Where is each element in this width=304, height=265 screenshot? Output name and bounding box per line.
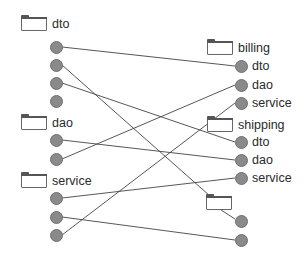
- diagram-canvas: dto dao service billing dto dao service …: [0, 0, 304, 265]
- folder-icon: [21, 116, 47, 130]
- package-label-dao: dao: [52, 116, 73, 130]
- node-dto-2[interactable]: [50, 59, 63, 72]
- node-shipping-dao[interactable]: [235, 154, 248, 167]
- node-unnamed-1[interactable]: [235, 215, 248, 228]
- edge-left-dao-1-to-shipping-dao: [62, 140, 235, 160]
- package-label-service: service: [52, 174, 92, 188]
- package-label-billing: billing: [238, 41, 270, 55]
- node-label-shipping-service: service: [252, 171, 292, 185]
- node-billing-dao[interactable]: [235, 79, 248, 92]
- node-label-billing-dao: dao: [252, 78, 273, 92]
- node-unnamed-2[interactable]: [235, 234, 248, 247]
- folder-icon: [207, 118, 233, 132]
- dependency-edges: [0, 0, 304, 265]
- edge-unnamed-folder-to-unnamed-1: [221, 210, 235, 219]
- node-service-2[interactable]: [50, 211, 63, 224]
- node-label-shipping-dao: dao: [252, 153, 273, 167]
- node-billing-service[interactable]: [235, 97, 248, 110]
- node-dto-4[interactable]: [50, 95, 63, 108]
- package-label-shipping: shipping: [238, 118, 285, 132]
- node-service-3[interactable]: [50, 229, 63, 242]
- node-label-billing-service: service: [252, 96, 292, 110]
- edge-left-service-2-to-unnamed-2: [62, 217, 235, 240]
- node-dto-1[interactable]: [50, 41, 63, 54]
- node-shipping-dto[interactable]: [235, 136, 248, 149]
- node-service-1[interactable]: [50, 192, 63, 205]
- folder-icon: [206, 196, 232, 210]
- edge-left-dto-3-to-shipping-dto: [62, 83, 235, 142]
- package-label-dto: dto: [52, 17, 69, 31]
- folder-icon: [21, 174, 47, 188]
- node-dao-1[interactable]: [50, 134, 63, 147]
- folder-icon: [21, 17, 47, 31]
- node-billing-dto[interactable]: [235, 60, 248, 73]
- node-dao-2[interactable]: [50, 153, 63, 166]
- folder-icon: [207, 41, 233, 55]
- node-dto-3[interactable]: [50, 77, 63, 90]
- node-shipping-service[interactable]: [235, 172, 248, 185]
- node-label-shipping-dto: dto: [252, 135, 269, 149]
- node-label-billing-dto: dto: [252, 59, 269, 73]
